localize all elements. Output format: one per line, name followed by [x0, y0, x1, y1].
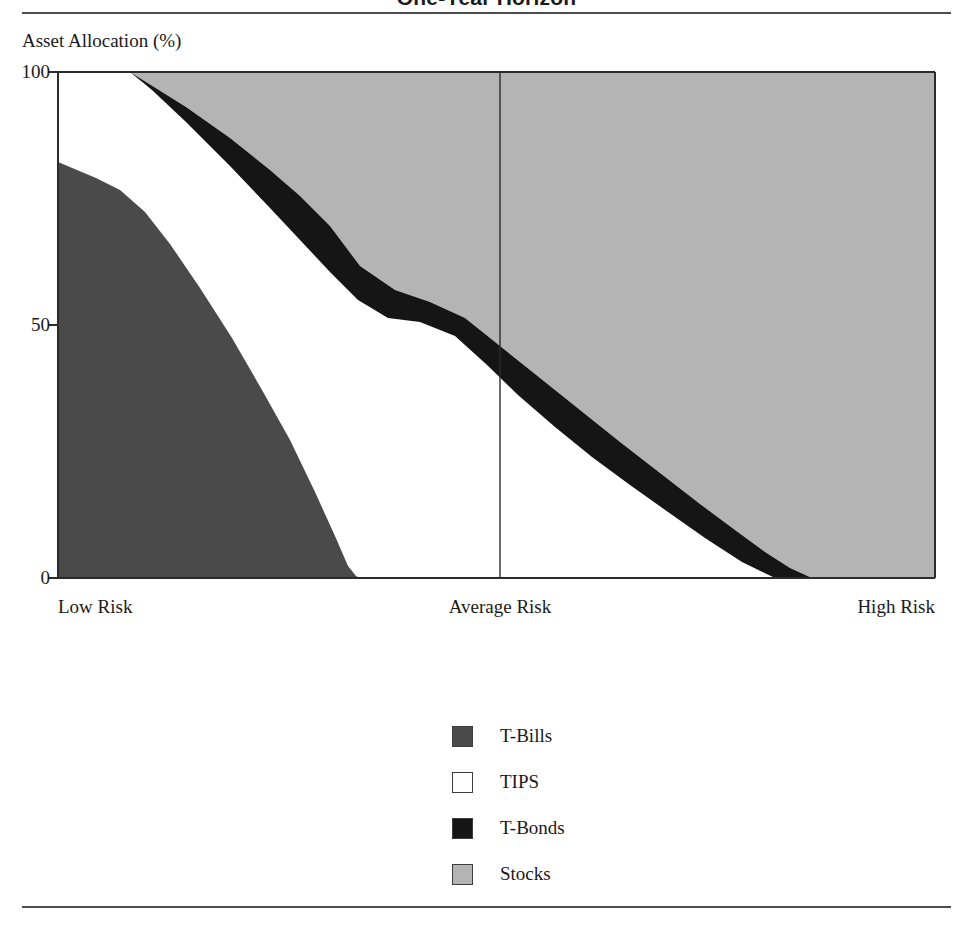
legend-item-stocks: Stocks: [452, 851, 752, 897]
legend-swatch-tips: [452, 772, 473, 793]
plot-area: 100 50 0 Low Risk Average Risk High Risk: [0, 0, 973, 640]
legend-label-t-bonds: T-Bonds: [500, 817, 565, 839]
legend-label-tips: TIPS: [500, 771, 539, 793]
x-tick-label-low-risk: Low Risk: [58, 596, 132, 618]
y-tick-label-0: 0: [6, 567, 50, 589]
legend-swatch-t-bonds: [452, 818, 473, 839]
stacked-area-chart: [0, 0, 973, 640]
figure-panel: One-Year Horizon Asset Allocation (%): [0, 0, 973, 937]
x-tick-label-high-risk: High Risk: [857, 596, 935, 618]
y-tick-label-100: 100: [6, 61, 50, 83]
bottom-divider-rule: [22, 906, 951, 908]
chart-legend: T-Bills TIPS T-Bonds Stocks: [452, 713, 752, 897]
legend-item-tips: TIPS: [452, 759, 752, 805]
legend-label-t-bills: T-Bills: [500, 725, 552, 747]
legend-swatch-stocks: [452, 864, 473, 885]
x-tick-label-average-risk: Average Risk: [449, 596, 552, 618]
legend-item-t-bonds: T-Bonds: [452, 805, 752, 851]
legend-swatch-t-bills: [452, 726, 473, 747]
legend-item-t-bills: T-Bills: [452, 713, 752, 759]
legend-label-stocks: Stocks: [500, 863, 551, 885]
y-tick-label-50: 50: [6, 314, 50, 336]
